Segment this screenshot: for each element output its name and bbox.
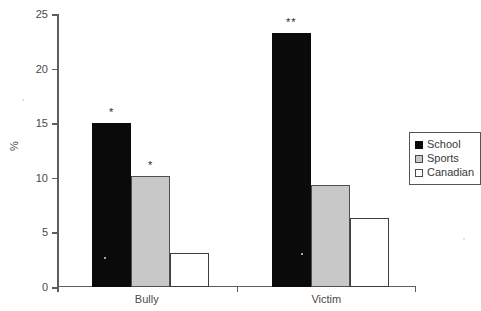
- bar-bully-canadian: [170, 253, 209, 287]
- scan-speck: [104, 257, 106, 259]
- scan-speck: [301, 253, 303, 255]
- significance-mark: **: [286, 17, 297, 28]
- legend-swatch-sports-icon: [415, 155, 423, 163]
- y-tick-label: 25: [36, 9, 48, 20]
- legend-swatch-school-icon: [415, 141, 423, 149]
- significance-mark: *: [148, 160, 153, 171]
- bar-bully-sports: [131, 176, 170, 287]
- y-tick: [52, 123, 57, 125]
- y-tick-label: 5: [42, 227, 48, 238]
- category-label-victim: Victim: [311, 293, 341, 305]
- legend-item-label: Canadian: [427, 166, 474, 179]
- y-tick: [52, 178, 57, 180]
- y-tick-label: 10: [36, 172, 48, 183]
- bar-victim-sports: [311, 185, 350, 287]
- y-tick: [52, 69, 57, 71]
- scan-speck: [463, 238, 465, 240]
- y-tick-label: 0: [42, 282, 48, 293]
- legend-item-label: School: [427, 138, 461, 151]
- category-label-bully: Bully: [135, 293, 159, 305]
- y-tick: [52, 232, 57, 234]
- y-tick-label: 20: [36, 63, 48, 74]
- y-axis-title: %: [8, 141, 20, 151]
- x-tick: [57, 287, 59, 292]
- legend-item-label: Sports: [427, 152, 459, 165]
- legend: SchoolSportsCanadian: [409, 132, 481, 185]
- y-axis-line: [57, 14, 59, 287]
- scan-speck: [22, 99, 24, 101]
- y-tick-label: 15: [36, 118, 48, 129]
- significance-mark: *: [109, 107, 114, 118]
- y-tick: [52, 14, 57, 16]
- bar-victim-canadian: [350, 218, 389, 287]
- legend-item-sports: Sports: [415, 152, 474, 165]
- bar-bully-school: [92, 123, 131, 287]
- x-tick: [237, 287, 239, 292]
- bar-victim-school: [272, 33, 311, 287]
- x-tick: [415, 287, 417, 292]
- legend-swatch-canadian-icon: [415, 169, 423, 177]
- legend-item-canadian: Canadian: [415, 166, 474, 179]
- plot-area: 0510152025 ****: [57, 14, 416, 287]
- legend-item-school: School: [415, 138, 474, 151]
